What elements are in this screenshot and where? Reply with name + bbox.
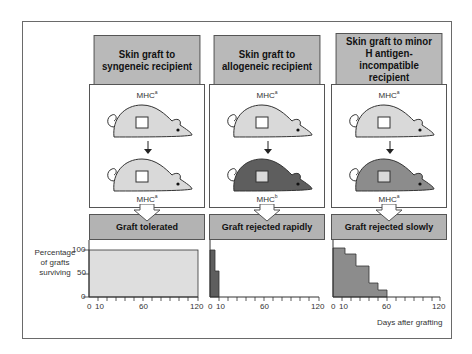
chart3-x-tick-0: 0	[331, 302, 335, 311]
chart2-x-tick-120: 120	[311, 302, 324, 311]
chart2-x-tick-10: 10	[216, 302, 225, 311]
chart2-x-tick-60: 60	[260, 302, 269, 311]
x-axis-label: Days after grafting	[377, 318, 442, 327]
chart3-x-tick-60: 60	[382, 302, 391, 311]
chart3-x-tick-10: 10	[339, 302, 348, 311]
survival-charts	[0, 0, 472, 354]
chart2-x-tick-0: 0	[208, 302, 212, 311]
chart3-x-tick-120: 120	[432, 302, 445, 311]
chart1-x-tick-60: 60	[139, 302, 148, 311]
chart1-x-tick-120: 120	[190, 302, 203, 311]
chart1-x-tick-10: 10	[95, 302, 104, 311]
chart1-x-tick-0: 0	[87, 302, 91, 311]
